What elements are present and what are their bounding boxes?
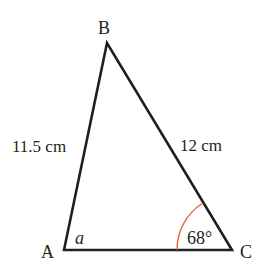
vertex-label-a: A [41, 242, 54, 262]
side-label-ab: 11.5 cm [12, 137, 66, 156]
side-label-bc: 12 cm [180, 136, 222, 155]
triangle-diagram: B A C 11.5 cm 12 cm a 68° [0, 0, 263, 280]
angle-label-c: 68° [187, 228, 212, 248]
vertex-label-b: B [98, 18, 110, 38]
angle-label-a: a [75, 228, 84, 248]
vertex-label-c: C [240, 242, 252, 262]
